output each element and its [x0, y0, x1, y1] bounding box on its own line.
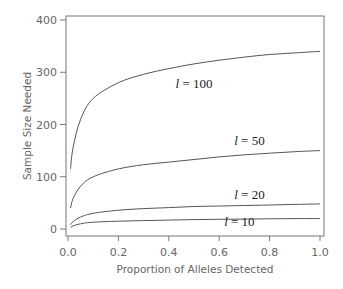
series-line-100	[71, 51, 321, 169]
y-tick-label: 300	[36, 66, 57, 79]
y-axis: 0100200300400	[36, 14, 66, 236]
y-axis-title: Sample Size Needed	[21, 72, 33, 180]
series-line-10	[71, 219, 321, 228]
x-axis: 0.00.20.40.60.81.0	[59, 236, 329, 259]
curve-label: l = 50	[234, 133, 264, 148]
x-tick-label: 0.8	[261, 246, 279, 259]
x-tick-label: 1.0	[311, 246, 329, 259]
x-tick-label: 0.6	[210, 246, 228, 259]
series-line-50	[71, 151, 321, 209]
x-tick-label: 0.4	[160, 246, 178, 259]
y-tick-label: 400	[36, 14, 57, 27]
x-tick-label: 0.2	[110, 246, 128, 259]
y-tick-label: 0	[50, 223, 57, 236]
curve-label: l = 20	[234, 187, 264, 202]
x-axis-title: Proportion of Alleles Detected	[117, 263, 274, 275]
y-tick-label: 200	[36, 119, 57, 132]
x-tick-label: 0.0	[59, 246, 77, 259]
line-chart: 0100200300400 0.00.20.40.60.81.0 l = 100…	[0, 0, 343, 289]
curve-label: l = 10	[224, 214, 254, 229]
plot-frame	[66, 16, 324, 236]
curve-label: l = 100	[176, 76, 213, 91]
y-tick-label: 100	[36, 171, 57, 184]
